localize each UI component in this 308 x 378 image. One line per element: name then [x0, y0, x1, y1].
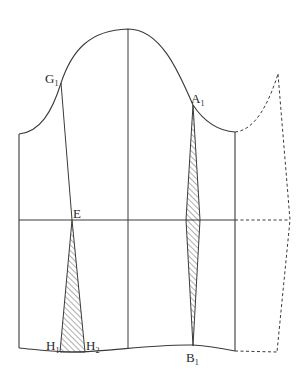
label-g1: G1 — [45, 71, 58, 88]
sleeve-pattern-diagram: G1 A1 E H1 H2 B1 — [0, 0, 308, 378]
g1-e-line — [61, 83, 72, 220]
label-h2: H2 — [86, 338, 99, 355]
hem-dart-e-h1-h2 — [60, 220, 85, 352]
label-a1: A1 — [191, 91, 204, 108]
label-h1: H1 — [46, 338, 59, 355]
label-e: E — [73, 206, 81, 221]
dart-a1-b1 — [186, 105, 200, 346]
label-b1: B1 — [186, 350, 199, 367]
dashed-cap-extension — [235, 74, 278, 132]
dashed-hem-extension — [235, 351, 277, 352]
dashed-outer-seam — [277, 74, 290, 352]
